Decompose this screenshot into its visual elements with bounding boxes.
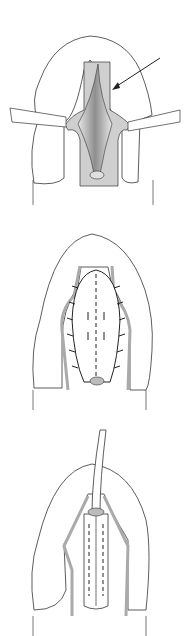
illustration-panel-1 (0, 0, 184, 210)
illustration-panel-3 (0, 420, 184, 636)
meatus (90, 377, 104, 385)
surgical-step-3-graphic (0, 420, 184, 636)
meatus (90, 171, 104, 179)
meatus (88, 508, 104, 516)
surgical-step-1-graphic (0, 0, 184, 210)
illustration-panel-2 (0, 210, 184, 420)
surgical-step-2-graphic (0, 210, 184, 420)
